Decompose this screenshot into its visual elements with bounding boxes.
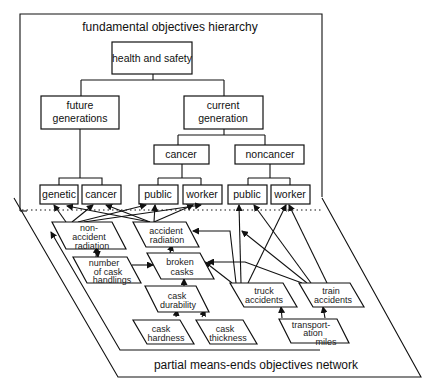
node-number-of-cask-handlings: number of cask handlings xyxy=(73,257,141,285)
node-accident-radiation: accident radiation xyxy=(133,222,199,247)
svg-text:current: current xyxy=(207,99,240,111)
svg-text:genetic: genetic xyxy=(42,188,76,200)
objectives-diagram: fundamental objectives hierarchy health … xyxy=(0,0,434,392)
leaf-noncancer-public: public xyxy=(228,185,267,204)
network-title: partial means-ends objectives network xyxy=(154,358,359,372)
leaf-future-cancer: cancer xyxy=(82,185,121,204)
leaf-cancer-public: public xyxy=(139,185,178,204)
svg-text:generations: generations xyxy=(53,112,108,124)
fundamental-title: fundamental objectives hierarchy xyxy=(82,20,257,34)
leaf-genetic: genetic xyxy=(40,185,78,204)
svg-text:future: future xyxy=(67,99,94,111)
node-cask-durability: cask durability xyxy=(145,286,209,312)
svg-text:worker: worker xyxy=(185,188,218,200)
node-cancer: cancer xyxy=(154,145,209,164)
svg-text:handlings: handlings xyxy=(93,275,132,285)
leaf-noncancer-worker: worker xyxy=(271,185,310,204)
node-health-and-safety: health and safety xyxy=(112,42,193,74)
svg-text:public: public xyxy=(233,188,260,200)
node-non-accident-radiation: non- accident radiation xyxy=(52,222,126,251)
svg-text:hardness: hardness xyxy=(147,333,185,343)
svg-text:accidents: accidents xyxy=(314,295,353,305)
svg-text:thickness: thickness xyxy=(209,333,247,343)
svg-text:casks: casks xyxy=(170,267,194,277)
node-future-generations: future generations xyxy=(41,96,119,129)
node-broken-casks: broken casks xyxy=(147,253,214,279)
svg-text:worker: worker xyxy=(273,188,306,200)
svg-text:public: public xyxy=(144,188,171,200)
node-transportation-miles: transport- ation miles xyxy=(279,319,349,347)
svg-text:accidents: accidents xyxy=(245,295,284,305)
node-train-accidents: train accidents xyxy=(299,283,364,307)
svg-text:health and safety: health and safety xyxy=(112,52,193,64)
svg-text:cancer: cancer xyxy=(165,148,197,160)
node-cask-hardness: cask hardness xyxy=(133,320,194,344)
svg-text:noncancer: noncancer xyxy=(245,148,295,160)
svg-text:miles: miles xyxy=(315,337,337,347)
svg-text:generation: generation xyxy=(198,112,248,124)
node-noncancer: noncancer xyxy=(235,145,304,164)
svg-text:broken: broken xyxy=(166,257,194,267)
node-current-generation: current generation xyxy=(184,96,263,129)
svg-text:radiation: radiation xyxy=(150,235,185,245)
node-truck-accidents: truck accidents xyxy=(230,283,297,307)
svg-text:durability: durability xyxy=(160,300,197,310)
svg-text:radiation: radiation xyxy=(75,241,110,251)
node-cask-thickness: cask thickness xyxy=(196,320,257,344)
svg-text:cancer: cancer xyxy=(85,188,117,200)
leaf-cancer-worker: worker xyxy=(183,185,222,204)
